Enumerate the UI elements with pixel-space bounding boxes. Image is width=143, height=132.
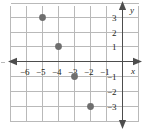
y-axis-label: y — [129, 5, 134, 15]
y-tick-label-2: 2 — [112, 28, 117, 38]
coordinate-plane-figure: y x −6 −5 −4 −3 −2 −1 3 2 1 −1 −2 −3 — [0, 0, 143, 132]
x-axis-right-arrowhead — [133, 58, 142, 65]
y-tick-label-3: 3 — [112, 13, 117, 23]
y-tick-label-neg2: −2 — [107, 87, 117, 97]
x-tick-label-neg4: −4 — [52, 67, 62, 77]
x-axis-left-arrowhead — [8, 58, 17, 65]
y-axis — [119, 1, 126, 129]
y-tick-label-neg1: −1 — [107, 72, 117, 82]
data-point — [39, 14, 46, 21]
y-tick-label-1: 1 — [112, 42, 117, 52]
left-edge-tick-mark — [1, 62, 5, 63]
data-point — [71, 73, 78, 80]
graph-svg: y x −6 −5 −4 −3 −2 −1 3 2 1 −1 −2 −3 — [0, 0, 143, 132]
x-tick-label-neg6: −6 — [20, 67, 30, 77]
y-axis-down-arrowhead — [119, 120, 126, 129]
data-point — [87, 103, 94, 110]
x-tick-label-neg5: −5 — [36, 67, 46, 77]
data-point — [55, 43, 62, 50]
y-tick-label-neg3: −3 — [107, 102, 117, 112]
grid-lines — [11, 4, 139, 122]
y-axis-up-arrowhead — [119, 1, 126, 10]
x-tick-label-neg2: −2 — [84, 67, 94, 77]
x-axis-label: x — [130, 66, 135, 76]
